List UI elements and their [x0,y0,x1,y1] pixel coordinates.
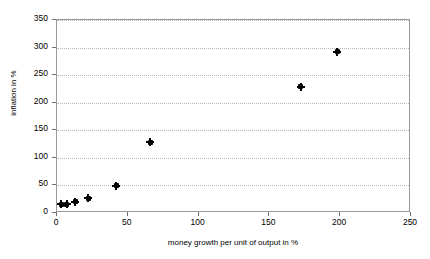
data-point [73,199,78,204]
gridline-y-250 [57,75,409,76]
y-tick-mark-250 [52,74,56,75]
gridline-y-300 [57,48,409,49]
x-tick-label-250: 250 [390,218,430,227]
y-tick-mark-50 [52,184,56,185]
x-tick-label-50: 50 [107,218,147,227]
y-tick-label-200: 200 [0,97,48,106]
x-tick-mark-150 [268,212,269,216]
x-tick-label-150: 150 [248,218,288,227]
plot-area [56,19,410,212]
y-tick-label-100: 100 [0,152,48,161]
y-tick-label-350: 350 [0,14,48,23]
x-tick-mark-200 [339,212,340,216]
x-tick-mark-250 [410,212,411,216]
x-tick-mark-100 [198,212,199,216]
x-tick-label-200: 200 [319,218,359,227]
data-point [114,183,119,188]
gridline-y-200 [57,103,409,104]
gridline-y-50 [57,185,409,186]
data-point [148,140,153,145]
x-tick-mark-50 [127,212,128,216]
y-tick-mark-300 [52,47,56,48]
gridline-y-350 [57,20,409,21]
data-point [64,202,69,207]
y-tick-mark-100 [52,157,56,158]
y-tick-mark-150 [52,129,56,130]
x-axis-label: money growth per unit of output in % [56,238,410,248]
gridline-y-150 [57,130,409,131]
y-tick-label-50: 50 [0,179,48,188]
y-tick-mark-350 [52,19,56,20]
x-tick-label-100: 100 [178,218,218,227]
y-tick-label-300: 300 [0,42,48,51]
y-tick-mark-200 [52,102,56,103]
data-point [335,49,340,54]
gridline-y-100 [57,158,409,159]
y-tick-label-0: 0 [0,207,48,216]
scatter-chart: inflation in % money growth per unit of … [0,0,430,259]
x-tick-mark-0 [56,212,57,216]
y-tick-label-150: 150 [0,124,48,133]
y-tick-label-250: 250 [0,69,48,78]
data-point [298,84,303,89]
x-tick-label-0: 0 [36,218,76,227]
data-point [86,196,91,201]
